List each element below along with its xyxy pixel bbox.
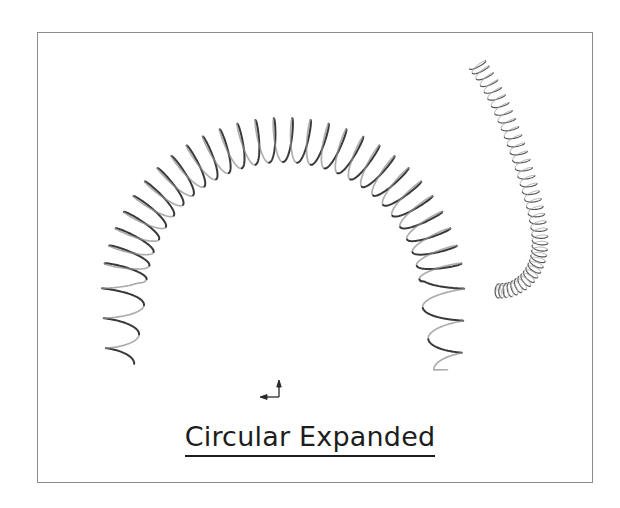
figure-root: Circular Expanded [0,0,620,508]
figure-frame-border [37,32,593,483]
caption-block: Circular Expanded [0,422,620,457]
figure-caption: Circular Expanded [185,422,436,457]
